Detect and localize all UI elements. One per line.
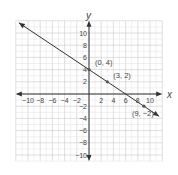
y-tick-label: −8 [79,139,87,146]
x-axis-arrow-right [156,92,162,97]
data-point [106,80,109,83]
x-tick-label: 4 [111,97,115,104]
axes [16,21,162,161]
data-point [87,68,90,71]
x-tick-label: −6 [48,97,56,104]
point-label: (0, 4) [95,58,113,67]
y-tick-label: −2 [79,103,87,110]
y-tick-label: 6 [83,54,87,61]
y-tick-label: 2 [83,78,87,85]
y-tick-label: −6 [79,127,87,134]
line-arrow-start [19,23,25,28]
y-tick-label: −10 [75,152,87,159]
point-label: (9, −2) [132,109,154,118]
y-axis-arrow-up [87,21,92,27]
data-point [142,105,145,108]
x-axis-label: x [166,89,173,100]
x-tick-label: 2 [99,97,103,104]
y-axis-arrow-down [87,155,92,161]
coordinate-plane: −10−8−6−4−2246810−10−8−6−4−2246810 (0, 4… [0,0,178,175]
y-tick-label: 8 [83,42,87,49]
point-label: (3, 2) [113,71,131,80]
x-tick-label: −4 [61,97,69,104]
x-tick-label: −10 [22,97,34,104]
x-tick-label: 6 [124,97,128,104]
x-tick-label: 10 [146,97,154,104]
x-tick-label: −8 [36,97,44,104]
x-axis-arrow-left [16,92,22,97]
y-tick-label: 10 [79,30,87,37]
y-tick-label: −4 [79,115,87,122]
y-axis-label: y [85,10,92,21]
